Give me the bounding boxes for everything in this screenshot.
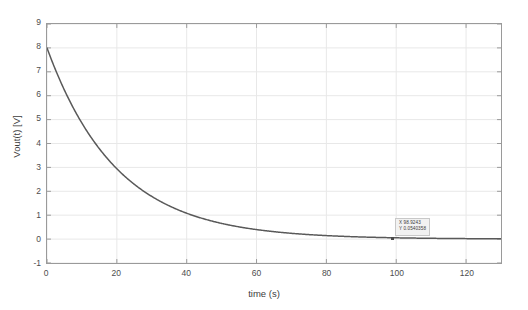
plot-axes [46,23,502,264]
x-tick-label: 120 [452,268,482,278]
figure-window: -10123456789 020406080100120 Vout(t) [V]… [0,0,528,310]
y-axis-title: Vout(t) [V] [11,89,22,185]
x-tick-label: 60 [241,268,271,278]
data-tip-marker[interactable] [391,237,394,240]
y-tick-label: 8 [15,41,41,51]
data-tip-box[interactable]: X 98.9243 Y 0.0540358 [395,218,430,237]
y-tick-label: -1 [15,258,41,268]
y-tick-label: 9 [15,17,41,27]
x-axis-title: time (s) [0,288,528,299]
x-tick-label: 80 [312,268,342,278]
data-tip-y-value: Y 0.0540358 [399,226,426,233]
y-tick-label: 0 [15,234,41,244]
data-curve [47,24,501,263]
y-tick-label: 7 [15,65,41,75]
x-tick-label: 20 [101,268,131,278]
x-tick-label: 0 [31,268,61,278]
x-tick-label: 100 [382,268,412,278]
x-tick-label: 40 [171,268,201,278]
data-tip-x-value: X 98.9243 [399,220,426,227]
y-tick-label: 1 [15,210,41,220]
y-tick-label: 2 [15,186,41,196]
